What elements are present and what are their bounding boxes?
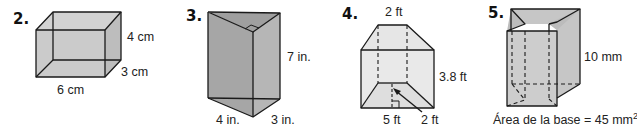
trapezoidal-prism: [361, 25, 434, 112]
base-area-exponent: 2: [633, 111, 637, 121]
leg-a-label: 4 in.: [216, 113, 240, 127]
top-base-label: 2 ft: [385, 5, 403, 19]
problem-number: 5.: [488, 4, 504, 22]
geometry-figures: 2. 4 cm 3 cm 6 cm 3.: [0, 0, 637, 136]
trapezoid-height-label: 2 ft: [421, 113, 439, 127]
height-label: 10 mm: [584, 50, 622, 64]
base-area-label: Área de la base = 45 mm2: [493, 111, 637, 127]
problem-5: 5. 10 mm Área de la base = 4: [488, 4, 637, 127]
problem-2: 2. 4 cm 3 cm 6 cm: [13, 10, 154, 97]
triangular-prism: [208, 12, 280, 117]
rectangular-prism: [36, 12, 121, 77]
problem-number: 2.: [13, 10, 29, 28]
problem-number: 3.: [186, 7, 202, 25]
depth-label: 3 cm: [121, 65, 148, 79]
height-label: 4 cm: [127, 30, 154, 44]
length-label: 3.8 ft: [439, 70, 467, 84]
bottom-base-label: 5 ft: [383, 113, 401, 127]
problem-number: 4.: [342, 5, 358, 23]
height-label: 7 in.: [287, 50, 311, 64]
width-label: 6 cm: [57, 83, 84, 97]
leg-b-label: 3 in.: [271, 113, 295, 127]
irregular-prism: [507, 9, 580, 106]
base-area-text: Área de la base = 45 mm: [493, 112, 633, 127]
problem-3: 3. 7 in. 4 in. 3 in.: [186, 7, 311, 127]
problem-4: 4. 2 ft 3.8 ft 5 ft 2 ft: [342, 5, 467, 127]
